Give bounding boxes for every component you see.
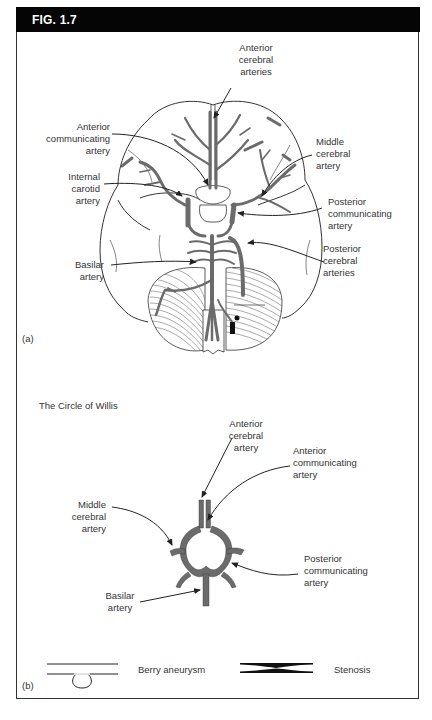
label-internal-carotid-artery: Internal carotid artery [50,171,100,207]
label-b-middle-cerebral-artery: Middle cerebral artery [56,499,106,535]
label-b-basilar-artery: Basilar artery [100,590,140,614]
label-anterior-cerebral-arteries: Anterior cerebral arteries [226,42,286,78]
label-posterior-cerebral-arteries: Posterior cerebral arteries [323,243,393,279]
legend-stenosis: Stenosis [334,664,370,675]
panel-b-tag: (b) [22,680,34,691]
label-middle-cerebral-artery: Middle cerebral artery [316,136,376,172]
circle-of-willis-diagram [170,500,244,606]
label-b-posterior-communicating-artery: Posterior communicating artery [304,553,394,589]
panel-b-subtitle: The Circle of Willis [39,400,118,411]
stenosis-symbol [240,663,313,673]
label-anterior-communicating-artery: Anterior communicating artery [34,121,110,157]
label-b-anterior-cerebral-artery: Anterior cerebral artery [224,418,268,454]
panel-a-tag: (a) [22,333,34,344]
label-basilar-artery: Basilar artery [56,259,104,283]
legend-berry-aneurysm: Berry aneurysm [138,664,205,675]
label-b-anterior-communicating-artery: Anterior communicating artery [293,445,383,481]
berry-aneurysm-symbol [47,664,118,688]
brain-base-illustration [0,0,432,720]
label-posterior-communicating-artery: Posterior communicating artery [328,196,418,232]
